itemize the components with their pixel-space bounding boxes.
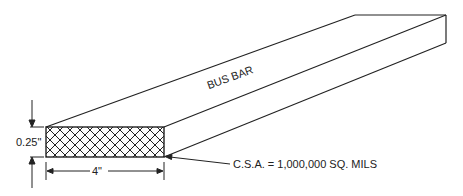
csa-leader <box>165 155 230 165</box>
csa-label: C.S.A. = 1,000,000 SQ. MILS <box>233 158 377 170</box>
cross-section-face <box>46 127 164 157</box>
bus-bar-label: BUS BAR <box>205 63 255 91</box>
width-label: 4" <box>92 165 102 177</box>
width-dimension <box>46 162 164 180</box>
thickness-label: 0.25" <box>16 136 41 148</box>
bus-bar-diagram: BUS BAR 0.25" 4" C.S.A. = 1,000,000 SQ. … <box>0 0 463 196</box>
